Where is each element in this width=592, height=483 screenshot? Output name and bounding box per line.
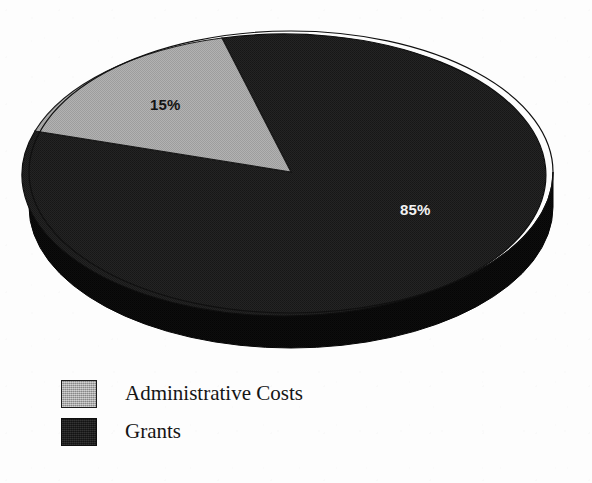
slice-value-label-grants: 85% bbox=[400, 201, 431, 218]
legend-item-grants[interactable]: Grants bbox=[61, 416, 391, 454]
legend-label-grants: Grants bbox=[125, 416, 181, 446]
slice-value-label-administrative-costs: 15% bbox=[150, 96, 181, 113]
pie-chart-figure: 15% 85% Administrative Costs Grants bbox=[0, 0, 592, 483]
legend-item-administrative-costs[interactable]: Administrative Costs bbox=[61, 378, 391, 416]
pie-top-face bbox=[22, 31, 553, 316]
legend-label-administrative-costs: Administrative Costs bbox=[125, 378, 303, 408]
legend-swatch-grants bbox=[61, 418, 97, 446]
chart-legend: Administrative Costs Grants bbox=[61, 378, 391, 454]
legend-swatch-administrative-costs bbox=[61, 380, 97, 408]
